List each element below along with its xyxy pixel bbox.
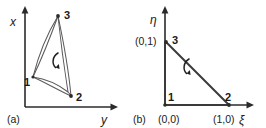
panel-b-element [165,42,229,105]
node-label-2: 2 [76,91,82,103]
panel-a-element [33,16,71,96]
node-coord-label-2: (1,0) [213,113,235,125]
node-dot-1 [31,75,34,78]
axis-label-eta: η [150,13,157,27]
node-label-3: 3 [172,34,178,46]
axis-arrow-icon [111,104,119,111]
rotation-arrow-icon [53,53,60,69]
node-label-2: 2 [225,91,231,103]
node-coord-label-3: (0,1) [135,35,157,47]
node-dot-2 [227,103,231,107]
node-label-3: 3 [64,9,70,21]
axis-label-xi: ξ [239,113,245,127]
node-coord-label-1: (0,0) [158,113,180,125]
axis-arrow-icon [247,102,255,109]
panel-a-vertical-axis [22,6,29,107]
panel-a-horizontal-axis [25,104,118,111]
axis-arrow-icon [22,6,29,14]
figure-root: 3 1 2 x y (a) [0,0,266,128]
axis-label-x: x [9,15,17,29]
node-dot-2 [69,94,73,98]
node-dot-3 [56,14,60,18]
axis-arrow-icon [162,6,169,14]
node-label-1: 1 [24,76,30,88]
node-label-1: 1 [168,91,174,103]
node-dot-1 [163,103,167,107]
axis-label-y: y [100,113,108,127]
panel-caption-a: (a) [7,113,20,125]
panel-caption-b: (b) [133,113,146,125]
node-dot-3 [164,40,168,44]
panel-b-diagram: (0,1) 3 1 (0,0) 2 (1,0) η ξ (b) [133,0,266,128]
panel-a-diagram: 3 1 2 x y (a) [0,0,133,128]
